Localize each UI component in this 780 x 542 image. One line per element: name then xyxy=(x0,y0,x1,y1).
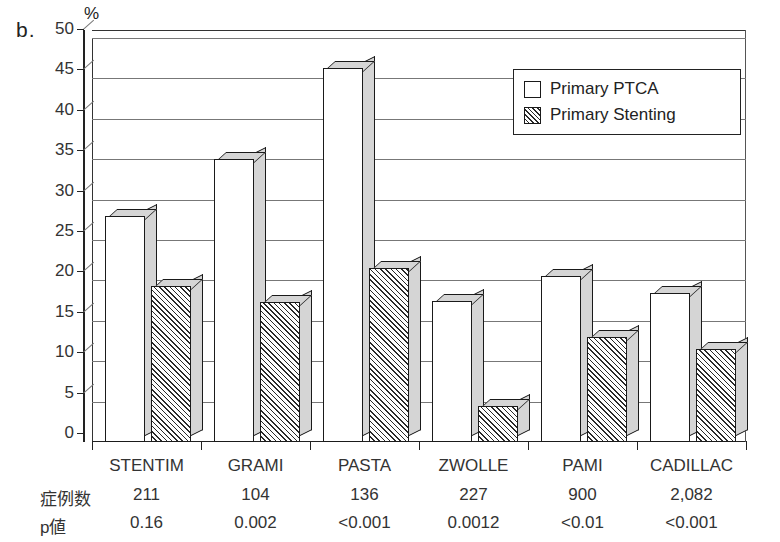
gridline xyxy=(92,200,746,201)
y-axis-tick-label: 25 xyxy=(38,221,74,241)
legend-swatch-hatched xyxy=(524,107,541,124)
bar-front-face xyxy=(696,349,736,442)
gridline xyxy=(92,159,746,160)
chart-canvas: b. % 50454035302520151050 STENTIMGRAMIPA… xyxy=(0,0,780,542)
bar-cadillac-primary-stenting xyxy=(696,349,736,442)
x-axis-tick xyxy=(637,441,638,450)
table-cell: 211 xyxy=(133,485,160,505)
x-axis-tick xyxy=(746,441,747,450)
gridline-depth-riser xyxy=(83,150,93,159)
bar-pami-primary-stenting xyxy=(587,337,627,442)
bar-stentim-primary-stenting xyxy=(151,286,191,442)
table-cell: <0.001 xyxy=(665,513,717,533)
table-cell: 0.0012 xyxy=(448,513,500,533)
legend-label: Primary PTCA xyxy=(550,79,659,99)
y-axis-tick xyxy=(77,352,84,353)
chart-legend: Primary PTCA Primary Stenting xyxy=(513,69,741,135)
table-row-header: 症例数 xyxy=(40,485,91,510)
legend-item-primary-stenting: Primary Stenting xyxy=(524,102,730,128)
x-axis-label-cadillac: CADILLAC xyxy=(650,456,733,476)
x-axis-label-grami: GRAMI xyxy=(228,456,284,476)
table-cell: 227 xyxy=(459,485,487,505)
y-axis-tick xyxy=(77,110,84,111)
y-tick-label-group: 50454035302520151050 xyxy=(34,0,74,542)
bar-side-face xyxy=(300,290,312,436)
x-axis-label-pami: PAMI xyxy=(562,456,602,476)
x-axis-tick xyxy=(528,441,529,450)
gridline xyxy=(92,38,746,39)
gridline-depth-riser xyxy=(83,191,93,200)
x-axis-label-stentim: STENTIM xyxy=(109,456,184,476)
legend-item-primary-ptca: Primary PTCA xyxy=(524,76,730,102)
bar-grami-primary-ptca xyxy=(214,159,254,442)
gridline-depth-riser xyxy=(83,69,93,78)
bar-front-face xyxy=(369,268,409,442)
x-axis-tick xyxy=(419,441,420,450)
bar-side-face xyxy=(409,256,421,436)
table-cell: 136 xyxy=(350,485,378,505)
y-axis-tick-label: 5 xyxy=(38,383,74,403)
y-axis-tick xyxy=(77,29,84,30)
gridline xyxy=(92,240,746,241)
x-axis-label-zwolle: ZWOLLE xyxy=(439,456,509,476)
y-axis-tick xyxy=(77,271,84,272)
bar-front-face xyxy=(214,159,254,442)
gridline-depth-riser xyxy=(83,312,93,321)
gridline-depth-riser xyxy=(83,231,93,240)
bar-front-face xyxy=(650,293,690,442)
x-axis-tick xyxy=(201,441,202,450)
y-axis-tick xyxy=(77,231,84,232)
gridline-depth-riser xyxy=(83,352,93,361)
y-axis-tick xyxy=(77,433,84,434)
bar-zwolle-primary-stenting xyxy=(478,406,518,442)
y-axis-tick-label: 45 xyxy=(38,59,74,79)
table-cell: 104 xyxy=(241,485,269,505)
y-axis-tick-label: 15 xyxy=(38,302,74,322)
table-cell: 0.16 xyxy=(130,513,163,533)
bar-cadillac-primary-ptca xyxy=(650,293,690,442)
bar-front-face xyxy=(323,68,363,442)
y-axis-tick xyxy=(77,150,84,151)
table-row-header: p値 xyxy=(40,513,66,538)
bar-front-face xyxy=(541,276,581,442)
bar-grami-primary-stenting xyxy=(260,302,300,442)
bar-pasta-primary-stenting xyxy=(369,268,409,442)
table-cell: 0.002 xyxy=(234,513,277,533)
y-axis-tick-label: 35 xyxy=(38,140,74,160)
table-cell: <0.001 xyxy=(338,513,390,533)
y-axis-tick xyxy=(77,312,84,313)
gridline-depth-riser xyxy=(83,110,93,119)
y-axis-tick-label: 40 xyxy=(38,100,74,120)
bar-zwolle-primary-ptca xyxy=(432,301,472,442)
y-axis-tick-label: 20 xyxy=(38,261,74,281)
bar-front-face xyxy=(260,302,300,442)
bar-side-face xyxy=(191,274,203,436)
y-axis-tick-label: 0 xyxy=(38,423,74,443)
bar-pasta-primary-ptca xyxy=(323,68,363,442)
bar-front-face xyxy=(432,301,472,442)
x-axis-label-pasta: PASTA xyxy=(338,456,391,476)
y-axis-tick xyxy=(77,191,84,192)
bar-front-face xyxy=(478,406,518,442)
bar-side-face xyxy=(736,337,748,436)
bar-stentim-primary-ptca xyxy=(105,216,145,442)
bar-front-face xyxy=(105,216,145,442)
gridline-depth-riser xyxy=(83,271,93,280)
table-cell: 2,082 xyxy=(670,485,713,505)
y-axis-tick-label: 10 xyxy=(38,342,74,362)
legend-swatch-open xyxy=(524,81,541,98)
gridline-depth-riser xyxy=(83,393,93,402)
gridline-depth-riser xyxy=(83,29,93,38)
x-axis-tick xyxy=(310,441,311,450)
panel-letter: b. xyxy=(16,18,36,42)
x-axis-tick xyxy=(92,441,93,450)
bar-pami-primary-ptca xyxy=(541,276,581,442)
bar-front-face xyxy=(151,286,191,442)
y-axis-tick-label: 50 xyxy=(38,19,74,39)
legend-label: Primary Stenting xyxy=(550,105,676,125)
y-axis-tick-label: 30 xyxy=(38,181,74,201)
bar-front-face xyxy=(587,337,627,442)
bar-side-face xyxy=(627,325,639,436)
y-axis-tick xyxy=(77,393,84,394)
table-cell: 900 xyxy=(568,485,596,505)
